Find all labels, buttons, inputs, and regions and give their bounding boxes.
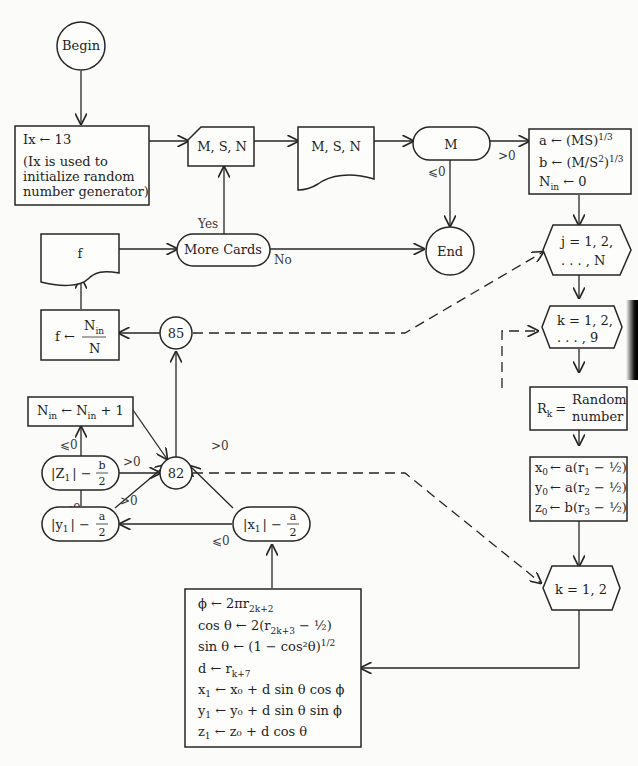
label-x-nonpositive: ⩽0: [212, 534, 230, 548]
test-z-num: b: [98, 459, 105, 472]
test-x-rhs: | −: [262, 517, 281, 532]
count-sub: in: [48, 411, 57, 421]
connector-85-label: 85: [168, 326, 185, 341]
random-number-box: Rk= Random number: [530, 387, 627, 430]
label-m-positive: >0: [498, 149, 516, 163]
read-card-label: M, S, N: [197, 139, 247, 154]
edge-labels: >0 ⩽0 Yes No >0 ⩽0 >0 ⩽0 >0 ⩽0: [60, 149, 516, 548]
loop-k2-label: k = 1, 2: [555, 582, 607, 597]
begin-label: Begin: [62, 38, 101, 53]
compute-f-den: N: [89, 341, 100, 356]
random-rhs-2: number: [572, 409, 624, 424]
init-line-2: (Ix is used to: [23, 154, 108, 169]
more-cards-decision: More Cards: [177, 234, 270, 266]
loop-k9-preparation: k = 1, 2, . . . , 9: [542, 306, 622, 348]
edge-loopk2-step: [361, 610, 579, 668]
test-y-num: a: [99, 510, 106, 523]
test-z-sub: 1: [64, 473, 70, 483]
label-more-yes: Yes: [197, 217, 218, 231]
count-sub2: in: [88, 411, 97, 421]
step-z1-tail: ← z₀ + d cos θ: [211, 724, 308, 739]
step-y1-line: y1 ← y₀ + d sin θ sin ϕ: [197, 703, 342, 720]
label-z-positive: >0: [123, 455, 141, 469]
read-card-input: M, S, N: [188, 127, 254, 166]
compute-b-exp: 1/3: [609, 154, 624, 164]
init-process-box: Ix ← 13 (Ix is used to initialize random…: [15, 126, 149, 205]
end-terminal: End: [426, 227, 474, 275]
loop-j-line-2: . . . , N: [561, 253, 605, 268]
test-y-lhs: |y: [51, 517, 63, 532]
compute-f-num: N: [84, 318, 95, 333]
y0-sub: 0: [542, 487, 548, 497]
label-m-nonpositive: ⩽0: [428, 165, 446, 179]
compute-f-num-sub: in: [95, 326, 104, 336]
step-sin-text: sin θ ← (1 − cos²θ): [198, 639, 321, 654]
test-x-den: 2: [290, 526, 297, 539]
test-y-den: 2: [99, 526, 106, 539]
loop-k2-preparation: k = 1, 2: [543, 566, 620, 610]
test-y-decision: |y1| − a 2: [42, 507, 119, 541]
init-line-1: Ix ← 13: [23, 132, 71, 147]
connector-82: 82: [160, 457, 192, 489]
more-cards-label: More Cards: [184, 242, 262, 257]
label-z-nonpositive: ⩽0: [60, 438, 78, 452]
connector-82-label: 82: [168, 466, 185, 481]
compute-nin-var: N: [539, 174, 550, 189]
test-y-sub: 1: [63, 524, 69, 534]
step-compute-box: ϕ ← 2πr2k+2 cos θ ← 2(r2k+3 − ½) sin θ ←…: [185, 589, 361, 747]
label-y-positive: >0: [120, 494, 138, 508]
step-x1-tail: ← x₀ + d sin θ cos ϕ: [211, 682, 345, 697]
random-lhs-sub: k: [547, 409, 553, 419]
end-label: End: [437, 244, 463, 259]
test-x-lhs: |x: [243, 517, 255, 532]
x0-sub: 0: [542, 467, 548, 477]
label-more-no: No: [274, 253, 292, 267]
init-xyz-box: x0← a(r1 − ½) y0← a(r2 − ½) z0← b(r3 − ½…: [530, 457, 627, 521]
y0-tail: − ½): [590, 480, 627, 495]
compute-f-box: f ← Nin N: [41, 310, 119, 360]
random-rhs-1: Random: [572, 392, 627, 407]
init-line-4: number generator): [23, 184, 149, 199]
compute-ab-box: a ← (MS)1/3 b ← (M/S2)1/3 Nin ← 0: [529, 129, 631, 194]
step-cos-sub: 2k+3: [270, 626, 295, 636]
test-x-decision: |x1| − a 2: [233, 507, 310, 541]
x0-rhs: ← a(r: [550, 460, 585, 475]
y0-rhs: ← a(r: [550, 480, 585, 495]
test-z-lhs: |Z: [51, 466, 64, 481]
compute-nin-sub: in: [550, 182, 559, 192]
count-tail: + 1: [96, 403, 123, 418]
test-z-den: 2: [99, 475, 106, 488]
step-y1-tail: ← y₀ + d sin θ sin ϕ: [211, 703, 342, 718]
print-msn-document: M, S, N: [298, 127, 374, 190]
init-z0-line: z0← b(r3 − ½): [535, 500, 627, 517]
label-x-positive: >0: [211, 439, 229, 453]
step-phi-sub: 2k+2: [249, 604, 273, 614]
compute-b-lhs: b ← (M/S: [539, 155, 598, 170]
print-msn-label: M, S, N: [311, 139, 361, 154]
z0-rhs: ← b(r: [550, 500, 585, 515]
compute-a-exp: 1/3: [598, 132, 613, 142]
step-phi-text: ϕ ← 2πr: [198, 596, 250, 611]
test-y-lhs-line: |y1| −: [51, 517, 90, 534]
test-x-num: a: [290, 510, 297, 523]
compute-nin-rhs: ← 0: [559, 174, 586, 189]
loop-k9-line-1: k = 1, 2,: [557, 313, 613, 328]
edge-testx-82: [190, 466, 233, 508]
test-x-sub: 1: [255, 524, 261, 534]
connector-85: 85: [160, 317, 192, 349]
test-z-decision: |Z1| − b 2: [42, 456, 119, 490]
count-increment-box: Nin ← Nin + 1: [28, 397, 133, 426]
loop-j-line-1: j = 1, 2,: [559, 234, 613, 249]
compute-f-lhs: f ←: [55, 329, 75, 344]
test-z-rhs: | −: [72, 466, 91, 481]
loop-k9-line-2: . . . , 9: [557, 330, 598, 345]
step-d-sub: k+7: [232, 669, 251, 679]
print-f-document: f: [41, 234, 119, 285]
loop-j-preparation: j = 1, 2, . . . , N: [543, 225, 631, 275]
x0-tail: − ½): [590, 460, 627, 475]
step-cos-tail: − ½): [295, 618, 332, 633]
step-sin-line: sin θ ← (1 − cos²θ)1/2: [198, 638, 335, 654]
test-y-rhs: | −: [70, 517, 89, 532]
init-line-3: initialize random: [23, 169, 135, 184]
count-var: N: [37, 403, 48, 418]
